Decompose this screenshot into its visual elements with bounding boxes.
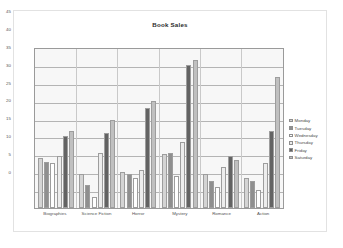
bar-friday[interactable] — [269, 131, 274, 208]
legend-item-thursday[interactable]: Thursday — [289, 139, 339, 146]
legend-swatch-icon — [289, 126, 293, 130]
bar-group-action — [242, 49, 282, 208]
y-axis: 051015202530354045 — [0, 11, 12, 172]
bar-wednesday[interactable] — [50, 163, 55, 208]
legend-item-wednesday[interactable]: Wednesday — [289, 132, 339, 139]
bar-thursday[interactable] — [221, 167, 226, 208]
bar-saturday[interactable] — [234, 160, 239, 208]
x-axis-label-biographies: Biographies — [34, 211, 76, 216]
bar-wednesday[interactable] — [92, 197, 97, 208]
x-axis-label-horror: Horror — [117, 211, 159, 216]
bar-saturday[interactable] — [110, 120, 115, 208]
y-axis-tick-40: 40 — [6, 26, 11, 31]
bar-saturday[interactable] — [193, 60, 198, 208]
y-axis-tick-25: 25 — [6, 80, 11, 85]
chart-title: Book Sales — [14, 21, 326, 28]
bars-layer — [35, 49, 283, 208]
bar-monday[interactable] — [244, 178, 249, 208]
bar-thursday[interactable] — [263, 163, 268, 208]
x-axis-label-romance: Romance — [201, 211, 243, 216]
bar-tuesday[interactable] — [127, 174, 132, 208]
y-axis-tick-30: 30 — [6, 62, 11, 67]
x-axis-labels: BiographiesScience FictionHorrorMysteryR… — [34, 211, 284, 216]
bar-monday[interactable] — [203, 174, 208, 208]
bar-thursday[interactable] — [98, 153, 103, 208]
y-axis-tick-0: 0 — [9, 170, 11, 175]
legend-swatch-icon — [289, 148, 293, 152]
bar-tuesday[interactable] — [44, 162, 49, 209]
bar-wednesday[interactable] — [133, 178, 138, 208]
bar-saturday[interactable] — [69, 131, 74, 208]
bar-group-horror — [118, 49, 159, 208]
y-axis-tick-45: 45 — [6, 9, 11, 14]
plot-area — [34, 48, 284, 209]
legend-label: Tuesday — [295, 126, 312, 131]
chart-legend: MondayTuesdayWednesdayThursdayFridaySatu… — [289, 117, 339, 161]
bar-saturday[interactable] — [275, 77, 280, 208]
x-axis-label-action: Action — [242, 211, 284, 216]
bar-friday[interactable] — [145, 108, 150, 208]
y-axis-tick-10: 10 — [6, 134, 11, 139]
legend-label: Monday — [295, 118, 311, 123]
chart-container: Book Sales 051015202530354045 Biographie… — [13, 10, 327, 232]
y-axis-tick-15: 15 — [6, 116, 11, 121]
bar-thursday[interactable] — [180, 142, 185, 208]
bar-wednesday[interactable] — [256, 190, 261, 208]
bar-wednesday[interactable] — [215, 187, 220, 208]
legend-swatch-icon — [289, 134, 293, 138]
bar-monday[interactable] — [38, 158, 43, 208]
legend-label: Thursday — [295, 140, 313, 145]
y-axis-tick-5: 5 — [9, 152, 11, 157]
bar-monday[interactable] — [120, 172, 125, 208]
bar-saturday[interactable] — [151, 101, 156, 208]
bar-tuesday[interactable] — [209, 181, 214, 208]
y-axis-tick-20: 20 — [6, 98, 11, 103]
legend-swatch-icon — [289, 119, 293, 123]
legend-label: Friday — [295, 148, 307, 153]
legend-item-tuesday[interactable]: Tuesday — [289, 124, 339, 131]
plot-wrapper — [34, 48, 284, 209]
legend-label: Wednesday — [295, 133, 318, 138]
bar-friday[interactable] — [104, 133, 109, 208]
bar-thursday[interactable] — [57, 156, 62, 208]
bar-friday[interactable] — [228, 156, 233, 208]
bar-monday[interactable] — [162, 154, 167, 208]
bar-thursday[interactable] — [139, 170, 144, 208]
legend-item-monday[interactable]: Monday — [289, 117, 339, 124]
bar-monday[interactable] — [79, 174, 84, 208]
bar-group-romance — [201, 49, 242, 208]
bar-tuesday[interactable] — [250, 181, 255, 208]
bar-friday[interactable] — [63, 136, 68, 208]
x-axis-label-mystery: Mystery — [159, 211, 201, 216]
legend-item-saturday[interactable]: Saturday — [289, 154, 339, 161]
x-axis-label-science-fiction: Science Fiction — [76, 211, 118, 216]
bar-group-science-fiction — [77, 49, 118, 208]
bar-tuesday[interactable] — [168, 153, 173, 208]
y-axis-tick-35: 35 — [6, 44, 11, 49]
bar-friday[interactable] — [186, 65, 191, 208]
bar-tuesday[interactable] — [85, 185, 90, 208]
bar-group-biographies — [36, 49, 77, 208]
legend-item-friday[interactable]: Friday — [289, 147, 339, 154]
bar-wednesday[interactable] — [174, 176, 179, 208]
legend-swatch-icon — [289, 141, 293, 145]
legend-swatch-icon — [289, 156, 293, 160]
legend-label: Saturday — [295, 155, 313, 160]
bar-group-mystery — [160, 49, 201, 208]
